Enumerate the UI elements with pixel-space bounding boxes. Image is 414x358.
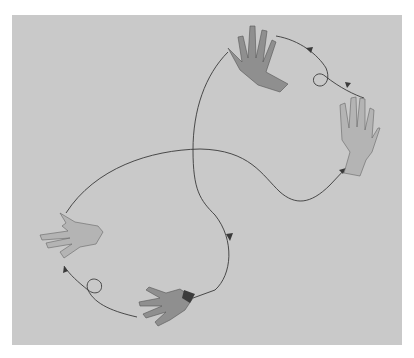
hand-bottom — [139, 287, 195, 326]
trajectory-path-top-loop — [276, 36, 364, 98]
hand-left — [40, 213, 103, 258]
arrowhead-icon — [345, 82, 351, 88]
trajectory-path-main — [66, 149, 346, 213]
trajectory-path-vertical — [193, 52, 229, 298]
arrowhead-icon — [63, 266, 68, 273]
hands-trajectory-illustration — [0, 0, 414, 358]
trajectory-path-bottom-loop — [64, 266, 137, 317]
hand-right — [340, 97, 380, 176]
hand-top — [228, 26, 288, 92]
